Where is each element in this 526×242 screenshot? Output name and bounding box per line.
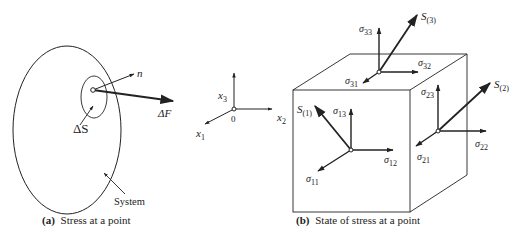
sigma13-label: σ13 — [333, 105, 346, 119]
sigma23-label: σ23 — [421, 86, 434, 100]
figure-a-caption: (a) Stress at a point — [42, 214, 131, 227]
sigma11-arrow — [318, 150, 351, 171]
s2-label: S(2) — [494, 78, 509, 93]
traction-s3-arrow — [379, 15, 417, 72]
sigma31-arrow — [363, 72, 379, 83]
s1-label: S(1) — [297, 103, 312, 118]
sigma33-label: σ33 — [359, 23, 372, 37]
front-face-point — [349, 148, 353, 152]
figure-a-stress-at-point: n ΔF ΔS System (a) Stress at a point — [13, 46, 173, 227]
sigma32-label: σ32 — [418, 57, 431, 71]
top-face-point — [377, 70, 381, 74]
cube-element — [293, 54, 467, 212]
figure-b-state-of-stress: S(3) σ33 σ32 σ31 S(1) σ13 — [293, 10, 509, 227]
normal-label: n — [137, 67, 143, 79]
sigma21-arrow — [416, 131, 438, 146]
stress-diagram: n ΔF ΔS System (a) Stress at a point x3 … — [0, 0, 526, 242]
force-vector-arrow — [93, 90, 173, 101]
system-label: System — [114, 196, 145, 207]
x3-axis-label: x3 — [217, 89, 227, 104]
system-body-outline — [13, 46, 121, 214]
traction-s2-arrow — [438, 83, 490, 131]
sigma22-label: σ22 — [475, 138, 488, 152]
origin-label: 0 — [231, 114, 236, 124]
right-face-stress-vectors: S(2) σ23 σ22 σ21 — [416, 78, 509, 165]
figure-b-caption: (b) State of stress at a point — [296, 214, 420, 227]
sigma12-label: σ12 — [384, 154, 397, 168]
x1-axis-label: x1 — [195, 127, 205, 142]
right-face-point — [436, 129, 440, 133]
area-label: ΔS — [73, 121, 89, 136]
top-face-stress-vectors: S(3) σ33 σ32 σ31 — [345, 10, 436, 89]
s3-label: S(3) — [421, 10, 436, 25]
point-marker — [91, 88, 96, 93]
front-face-stress-vectors: S(1) σ13 σ12 σ11 — [297, 103, 397, 187]
x2-axis-label: x2 — [276, 111, 286, 126]
coordinate-axes: x3 x2 x1 0 — [195, 73, 286, 142]
x1-axis — [205, 109, 234, 124]
sigma11-label: σ11 — [306, 173, 319, 187]
origin-marker — [232, 107, 236, 111]
sigma31-label: σ31 — [345, 75, 358, 89]
system-pointer-arrow — [104, 173, 125, 194]
force-label: ΔF — [157, 107, 171, 119]
area-element-outline — [81, 76, 107, 118]
sigma21-label: σ21 — [417, 151, 430, 165]
